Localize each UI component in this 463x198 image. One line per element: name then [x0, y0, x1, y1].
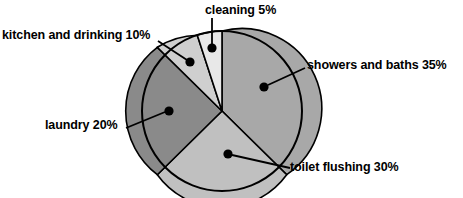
- pie-chart-figure: domestic water use cleaning 5% kitchen a: [0, 0, 463, 198]
- leader-dot-showers-and-baths: [259, 82, 268, 91]
- pie-label-laundry: laundry 20%: [45, 119, 118, 132]
- pie-label-kitchen-and-drinking: kitchen and drinking 10%: [2, 29, 150, 42]
- leader-dot-laundry: [164, 106, 173, 115]
- pie-label-cleaning: cleaning 5%: [205, 4, 276, 17]
- pie-label-toilet-flushing: toilet flushing 30%: [290, 161, 399, 174]
- leader-dot-kitchen-and-drinking: [185, 57, 194, 66]
- pie-label-showers-and-baths: showers and baths 35%: [307, 59, 447, 72]
- leader-dot-cleaning: [207, 43, 216, 52]
- leader-dot-toilet-flushing: [223, 149, 232, 158]
